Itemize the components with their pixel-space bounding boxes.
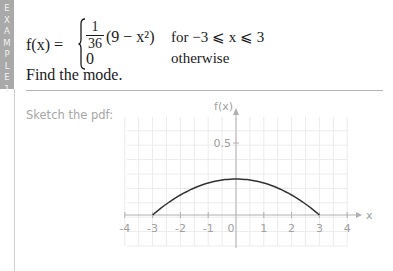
x-tick-label: 0 bbox=[228, 222, 235, 235]
y-tick-label: 0.5 bbox=[214, 137, 232, 150]
x-axis-arrow-icon bbox=[356, 212, 362, 218]
x-tick-label: -2 bbox=[175, 222, 186, 235]
x-tick-label: -1 bbox=[203, 222, 214, 235]
x-tick-label: 2 bbox=[288, 222, 295, 235]
x-tick-label: 3 bbox=[316, 222, 323, 235]
x-axis-label: x bbox=[366, 209, 373, 222]
chart-axes bbox=[125, 108, 362, 248]
x-tick-label: 4 bbox=[344, 222, 351, 235]
x-tick-label: -4 bbox=[119, 222, 130, 235]
x-tick-label: 1 bbox=[260, 222, 267, 235]
x-tick-label: -3 bbox=[147, 222, 158, 235]
y-axis-label: f(x) bbox=[214, 100, 233, 113]
y-axis-arrow-icon bbox=[233, 108, 239, 115]
pdf-chart: -4-3-2-1012340.5xf(x) bbox=[0, 0, 393, 271]
